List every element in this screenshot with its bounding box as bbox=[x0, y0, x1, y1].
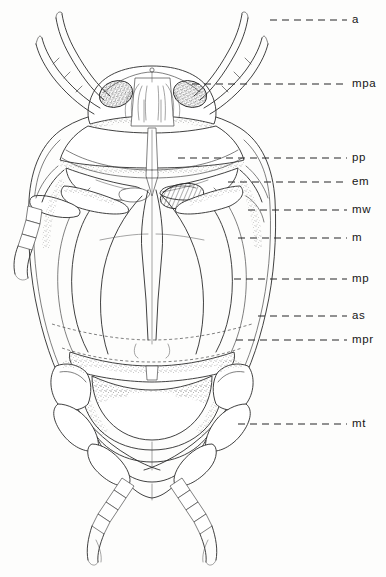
label-mp: mp bbox=[352, 272, 369, 284]
median-sternal-notch bbox=[146, 366, 158, 380]
label-mt: mt bbox=[352, 417, 366, 429]
label-mpa: mpa bbox=[352, 77, 376, 89]
insect-anatomy-illustration: ampappemmwmmpasmprmt bbox=[0, 0, 386, 577]
label-pp: pp bbox=[352, 151, 366, 163]
label-m: m bbox=[352, 231, 362, 243]
clypeus-plate bbox=[131, 78, 174, 126]
figure-caption-clipped bbox=[0, 564, 386, 577]
label-mw: mw bbox=[352, 203, 371, 215]
figure-plate: ampappemmwmmpasmprmt bbox=[0, 0, 386, 577]
label-a: a bbox=[352, 13, 359, 25]
label-mpr: mpr bbox=[352, 333, 374, 345]
label-em: em bbox=[352, 175, 369, 187]
frontal-tubercle bbox=[150, 68, 154, 72]
label-as: as bbox=[352, 309, 365, 321]
